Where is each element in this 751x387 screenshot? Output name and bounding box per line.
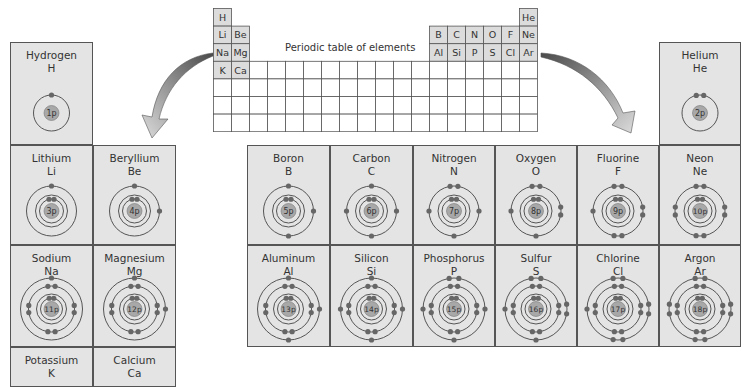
electron (537, 184, 542, 189)
element-cell-beryllium: BerylliumBe4p (93, 145, 176, 245)
electron (533, 233, 538, 238)
electron (701, 284, 706, 289)
electron (369, 183, 374, 188)
electron (263, 303, 268, 308)
electron (558, 204, 563, 209)
mini-table-cell (376, 61, 394, 79)
electron (482, 306, 487, 311)
electron (611, 276, 616, 281)
mini-table-symbol: He (522, 12, 535, 23)
electron (618, 197, 623, 202)
mini-table-cell (250, 114, 268, 132)
electron (530, 329, 535, 334)
electron (338, 306, 343, 311)
mini-table-cell (466, 61, 484, 79)
element-cell-sodium: SodiumNa11p (10, 245, 93, 347)
electron (448, 329, 453, 334)
mini-table-cell (250, 61, 268, 79)
bohr-model-diagram: 16p (496, 246, 578, 348)
mini-table-symbol: P (472, 47, 478, 58)
electron (701, 329, 706, 334)
electron (449, 296, 454, 301)
mini-table-symbol: F (508, 29, 513, 40)
mini-table-symbol: C (453, 29, 460, 40)
mini-table-cell (322, 97, 340, 115)
mini-table-symbol: Mg (233, 47, 247, 58)
mini-table-cell (430, 61, 448, 79)
mini-table-cell (376, 79, 394, 97)
mini-table-cell (232, 97, 250, 115)
bohr-model-diagram: 15p (414, 246, 496, 348)
element-cell-neon: NeonNe10p (659, 145, 741, 245)
electron (26, 303, 31, 308)
mini-table-cell (268, 97, 286, 115)
electron (392, 303, 397, 308)
electron (646, 311, 651, 316)
electron (344, 208, 349, 213)
element-cell-lithium: LithiumLi3p (10, 145, 93, 245)
bohr-model-diagram: 2p (660, 43, 742, 146)
electron (365, 329, 370, 334)
element-cell-oxygen: OxygenO8p (495, 145, 577, 245)
electron (533, 337, 538, 342)
electron (51, 197, 56, 202)
mini-table-cell (484, 61, 502, 79)
electron (590, 208, 595, 213)
electron (638, 310, 643, 315)
electron (693, 276, 698, 281)
electron (286, 337, 291, 342)
mini-table-cell (412, 97, 430, 115)
mini-table-cell (394, 114, 412, 132)
electron (702, 337, 707, 342)
mini-table-cell (412, 61, 430, 79)
element-cell-chlorine: ChlorineCl17p (577, 245, 659, 347)
electron (394, 208, 399, 213)
electron (155, 303, 160, 308)
element-cell-helium: HeliumHe2p (659, 42, 741, 145)
electron (157, 208, 162, 213)
proton-count: 15p (447, 305, 462, 314)
mini-table-symbol: Ne (522, 29, 535, 40)
electron (455, 284, 460, 289)
element-name: Calcium (94, 354, 175, 367)
electron (420, 306, 425, 311)
electron (700, 197, 705, 202)
mini-table-cell (394, 97, 412, 115)
mini-table-cell (502, 61, 520, 79)
bohr-model-diagram: 18p (660, 246, 742, 348)
electron (400, 306, 405, 311)
electron (611, 233, 616, 238)
proton-count: 3p (46, 207, 56, 216)
electron (365, 284, 370, 289)
mini-table-cell (232, 79, 250, 97)
mini-table-cell (232, 114, 250, 132)
mini-table-cell (430, 79, 448, 97)
mini-table-symbol: H (219, 12, 226, 23)
electron (369, 233, 374, 238)
mini-table-cell (340, 114, 358, 132)
mini-table-symbol: Be (234, 29, 247, 40)
electron (700, 296, 705, 301)
element-cell-magnesium: MagnesiumMg12p (93, 245, 176, 347)
mini-table-cell (412, 114, 430, 132)
electron (288, 296, 293, 301)
electron (613, 296, 618, 301)
electron (638, 303, 643, 308)
electron (451, 233, 456, 238)
electron (722, 204, 727, 209)
electron (109, 310, 114, 315)
mini-table-cell (466, 97, 484, 115)
electron (530, 284, 535, 289)
electron (611, 337, 616, 342)
electron (536, 197, 541, 202)
element-cell-silicon: SiliconSi14p (330, 245, 413, 347)
mini-table-cell (412, 79, 430, 97)
proton-count: 14p (364, 305, 379, 314)
mini-table-symbol: Si (452, 47, 461, 58)
mini-table-cell (322, 114, 340, 132)
mini-table-cell (358, 79, 376, 97)
electron (317, 306, 322, 311)
electron (448, 284, 453, 289)
electron (536, 296, 541, 301)
mini-table-cell (376, 97, 394, 115)
